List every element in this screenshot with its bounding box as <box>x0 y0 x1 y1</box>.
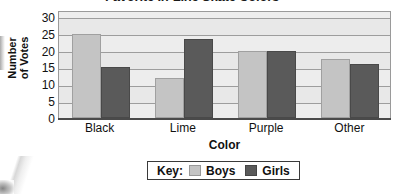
legend-swatch-girls <box>245 165 257 176</box>
y-tick-label-15: 15 <box>42 63 55 73</box>
bar-group-other <box>309 12 391 118</box>
y-tick-label-30: 30 <box>42 13 55 23</box>
bar-black-girls <box>101 67 130 118</box>
legend: Key: Boys Girls <box>147 161 300 180</box>
bars-layer <box>59 12 390 118</box>
y-tick-label-20: 20 <box>42 47 55 57</box>
x-axis-tick-labels: BlackLimePurpleOther <box>58 121 391 137</box>
y-axis-tick-labels: 051015202530 <box>28 14 55 119</box>
x-axis-title: Color <box>58 138 391 152</box>
bar-purple-girls <box>267 51 296 119</box>
bar-group-lime <box>142 12 225 118</box>
chart-title: Favorite In-Line Skate Colors <box>105 0 295 4</box>
y-tick-label-5: 5 <box>48 97 55 107</box>
bar-other-boys <box>321 59 350 118</box>
y-tick-label-10: 10 <box>42 80 55 90</box>
bar-lime-boys <box>155 78 184 119</box>
x-tick-label-purple: Purple <box>249 121 284 135</box>
bar-black-boys <box>72 34 101 118</box>
legend-swatch-boys <box>189 165 201 176</box>
x-axis-line <box>58 118 391 120</box>
x-tick-label-lime: Lime <box>170 121 196 135</box>
bar-purple-boys <box>238 51 267 119</box>
legend-item-boys: Boys <box>189 164 235 178</box>
legend-item-girls: Girls <box>245 164 289 178</box>
legend-label-boys: Boys <box>206 164 235 178</box>
plot-area <box>58 11 391 119</box>
y-axis-title-line1: Number <box>6 37 18 80</box>
bar-group-purple <box>226 12 309 118</box>
legend-label-girls: Girls <box>262 164 289 178</box>
y-tick-label-0: 0 <box>48 114 55 124</box>
y-tick-label-25: 25 <box>42 30 55 40</box>
bar-group-black <box>59 12 142 118</box>
x-tick-label-black: Black <box>85 121 114 135</box>
scan-artifact-edge <box>0 36 5 70</box>
bar-chart-figure: Favorite In-Line Skate Colors Number of … <box>0 0 398 194</box>
chart-title-text: Favorite In-Line Skate Colors <box>105 0 295 3</box>
scan-artifact-wedge <box>0 152 74 194</box>
bar-other-girls <box>350 64 379 118</box>
x-tick-label-other: Other <box>334 121 364 135</box>
legend-key-label: Key: <box>157 164 183 178</box>
bar-lime-girls <box>184 39 213 118</box>
